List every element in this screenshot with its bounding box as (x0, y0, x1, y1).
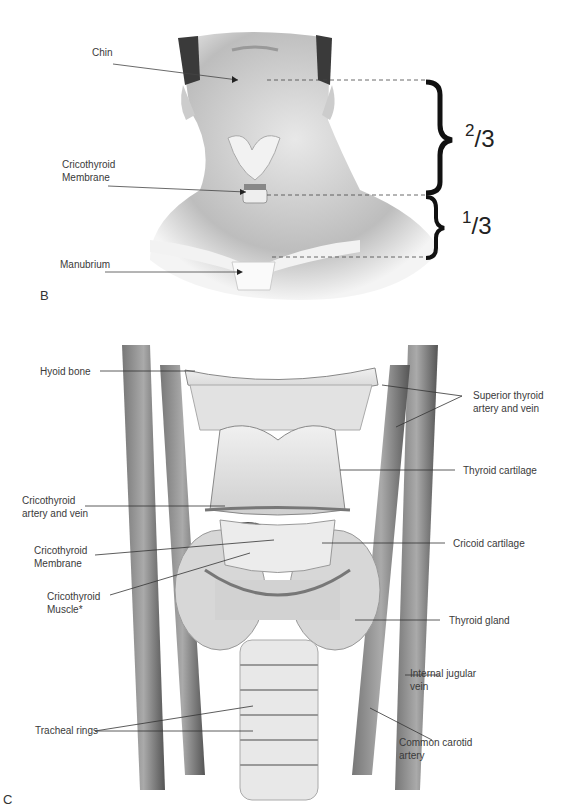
label-cricoid-cartilage: Cricoid cartilage (453, 537, 525, 550)
fraction-two-thirds: 2/3 (465, 125, 495, 153)
neck-figure (150, 32, 440, 300)
label-chin: Chin (92, 46, 113, 59)
label-internal-jugular-vein: Internal jugular vein (410, 667, 476, 693)
label-cricothyroid-membrane-b: Cricothyroid Membrane (62, 158, 115, 184)
label-hyoid-bone: Hyoid bone (40, 365, 91, 378)
panel-letter-c: C (3, 792, 12, 807)
larynx-figure (122, 345, 438, 800)
label-cricothyroid-membrane-c: Cricothyroid Membrane (34, 544, 87, 570)
label-superior-thyroid: Superior thyroid artery and vein (473, 389, 544, 415)
label-tracheal-rings: Tracheal rings (35, 724, 98, 737)
brace-upper (426, 82, 452, 193)
label-thyroid-gland: Thyroid gland (449, 614, 510, 627)
label-common-carotid-artery: Common carotid artery (399, 736, 472, 762)
label-cricothyroid-artery: Cricothyroid artery and vein (22, 494, 88, 520)
label-thyroid-cartilage: Thyroid cartilage (463, 464, 537, 477)
label-cricothyroid-muscle: Cricothyroid Muscle* (47, 590, 100, 616)
panel-letter-b: B (40, 288, 49, 303)
label-manubrium: Manubrium (60, 258, 110, 271)
fraction-one-third: 1/3 (462, 212, 492, 240)
